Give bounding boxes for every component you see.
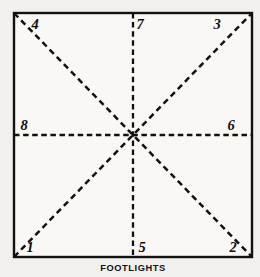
stage-position-label-6: 6	[227, 117, 235, 133]
stage-position-label-1: 1	[26, 239, 33, 255]
stage-position-label-4: 4	[30, 16, 38, 32]
stage-position-label-2: 2	[228, 239, 236, 255]
stage-positions-diagram: 1 2 3 4 5 6 7 8 FOOTLIGHTS	[0, 0, 260, 277]
footlights-label: FOOTLIGHTS	[100, 263, 165, 273]
stage-position-label-5: 5	[138, 239, 145, 255]
diagram-canvas: 1 2 3 4 5 6 7 8 FOOTLIGHTS	[0, 0, 260, 277]
stage-position-label-8: 8	[20, 117, 28, 133]
stage-position-label-7: 7	[136, 16, 144, 32]
stage-position-label-3: 3	[212, 16, 220, 32]
